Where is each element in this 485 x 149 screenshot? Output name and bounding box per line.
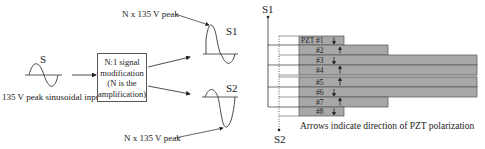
input-label: S bbox=[40, 54, 46, 65]
box-line-3: (N is the bbox=[98, 78, 146, 89]
pzt-layer-6-label: #6 bbox=[316, 89, 324, 97]
input-sine-wave bbox=[25, 64, 62, 87]
box-line-2: modification bbox=[98, 68, 146, 79]
pzt-layer-4-label: #4 bbox=[316, 67, 324, 75]
box-line-1: N:1 signal bbox=[98, 57, 146, 68]
s1-peak-pointer bbox=[175, 14, 209, 25]
signal-modification-box: N:1 signal modification (N is the amplif… bbox=[97, 53, 147, 102]
s2-label: S2 bbox=[226, 83, 238, 94]
s1-label: S1 bbox=[226, 26, 238, 37]
stack-terminal-s1: S1 bbox=[262, 4, 274, 15]
pzt-layer-7-label: #7 bbox=[316, 99, 324, 107]
pzt-layer-2-label: #2 bbox=[316, 47, 324, 55]
arrow-to-s1 bbox=[148, 57, 190, 67]
box-line-4: amplification) bbox=[98, 89, 146, 100]
arrow-to-s2 bbox=[148, 86, 190, 94]
stack-terminal-s2: S2 bbox=[274, 134, 286, 145]
input-caption: 135 V peak sinusoidal input bbox=[2, 93, 103, 102]
polarization-caption: Arrows indicate direction of PZT polariz… bbox=[300, 122, 474, 132]
s2-peak-pointer bbox=[175, 128, 223, 138]
pzt-layer-3-label: #3 bbox=[316, 57, 324, 65]
pzt-stack bbox=[267, 16, 477, 132]
pzt-layer-8-label: #8 bbox=[316, 108, 324, 116]
s2-wave bbox=[202, 90, 238, 128]
s2-annotation: N x 135 V peak bbox=[124, 134, 181, 143]
s1-annotation: N x 135 V peak bbox=[122, 10, 179, 19]
pzt-layer-5-label: #5 bbox=[316, 79, 324, 87]
pzt-layer-1-label: PZT #1 bbox=[301, 37, 324, 45]
